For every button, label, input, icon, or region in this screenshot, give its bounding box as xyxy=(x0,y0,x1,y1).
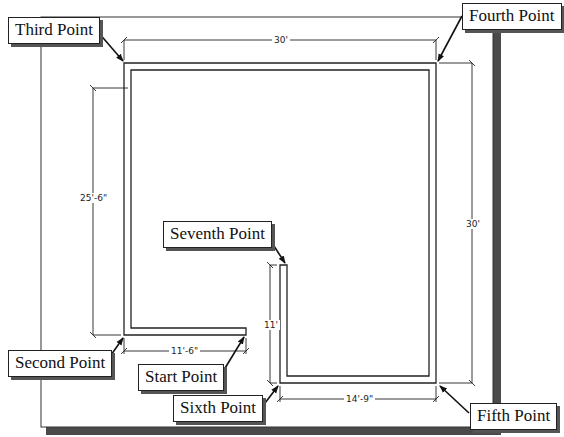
callout-sixth-point: Sixth Point xyxy=(173,395,263,422)
callout-fifth-point: Fifth Point xyxy=(470,403,557,430)
dimension-top-label: 30' xyxy=(272,35,290,45)
dimension-notch-label: 11' xyxy=(262,320,280,330)
dimension-right-label: 30' xyxy=(464,219,482,229)
callout-seventh-point: Seventh Point xyxy=(163,221,272,248)
dimension-bottom-right-label: 14'-9" xyxy=(344,394,375,404)
dimension-left-label: 25'-6" xyxy=(78,193,109,203)
callout-start-point: Start Point xyxy=(138,364,224,391)
callout-fourth-point: Fourth Point xyxy=(462,3,562,30)
callout-third-point: Third Point xyxy=(8,17,100,44)
dimension-bottom-left-label: 11'-6" xyxy=(169,346,200,356)
callout-second-point: Second Point xyxy=(8,350,112,377)
